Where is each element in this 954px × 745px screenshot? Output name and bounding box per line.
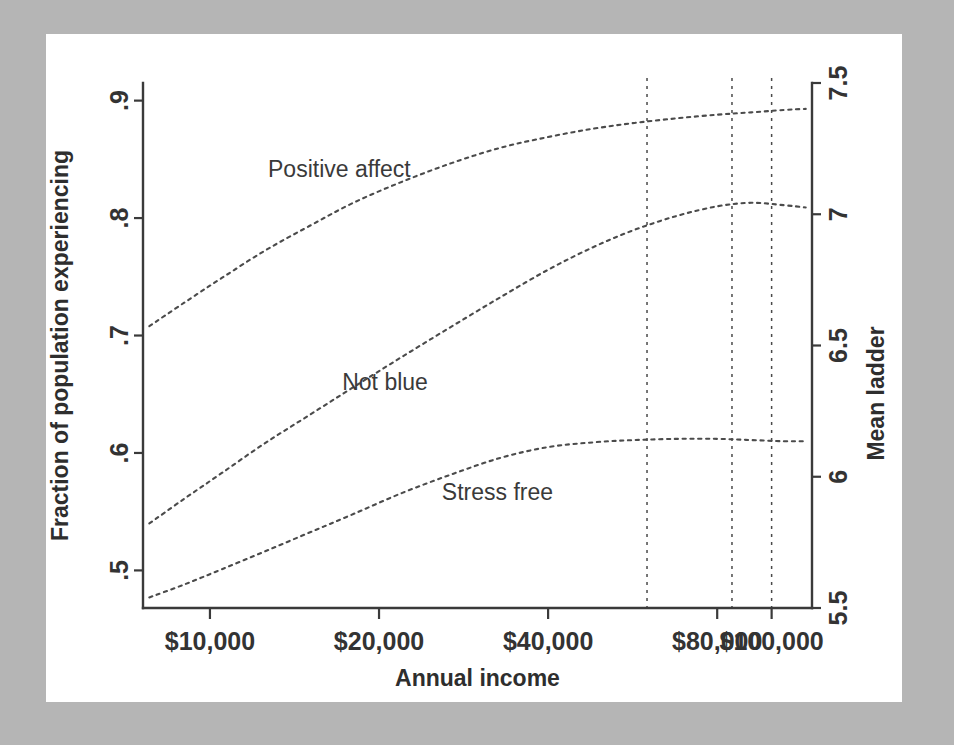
series-label-not-blue: Not blue	[342, 369, 428, 395]
series-line-stress-free	[149, 439, 805, 598]
axis-labels-group: .5.6.7.8.95.566.577.5$10,000$20,000$40,0…	[47, 66, 889, 691]
y-tick-label-left-4: .9	[105, 90, 133, 111]
x-tick-label-1: $20,000	[334, 627, 424, 655]
y-axis-left-title: Fraction of population experiencing	[47, 150, 73, 541]
series-label-positive-affect: Positive affect	[268, 156, 411, 182]
series-line-not-blue	[149, 203, 805, 524]
series-lines-group	[149, 109, 805, 598]
y-tick-label-left-2: .7	[105, 325, 133, 346]
y-tick-label-right-0: 5.5	[824, 591, 852, 626]
reference-lines-group	[647, 78, 772, 608]
chart-svg: .5.6.7.8.95.566.577.5$10,000$20,000$40,0…	[0, 0, 954, 745]
x-tick-label-0: $10,000	[165, 627, 255, 655]
series-label-stress-free: Stress free	[442, 479, 553, 505]
chart-figure: .5.6.7.8.95.566.577.5$10,000$20,000$40,0…	[0, 0, 954, 745]
y-tick-label-right-2: 6.5	[824, 328, 852, 363]
y-axis-right-title: Mean ladder	[863, 326, 889, 460]
y-tick-label-left-0: .5	[105, 560, 133, 581]
x-tick-label-2: $40,000	[503, 627, 593, 655]
y-tick-label-right-3: 7	[824, 207, 852, 221]
series-annotations-group: Positive affectNot blueStress free	[268, 156, 553, 505]
x-axis-title: Annual income	[395, 665, 560, 691]
y-tick-label-right-4: 7.5	[824, 66, 852, 101]
y-tick-label-left-1: .6	[105, 443, 133, 464]
y-tick-label-left-3: .8	[105, 208, 133, 229]
axes-group	[134, 83, 821, 619]
x-tick-label-4: $100,000	[719, 627, 823, 655]
series-line-positive-affect	[149, 109, 805, 326]
y-tick-label-right-1: 6	[824, 470, 852, 484]
